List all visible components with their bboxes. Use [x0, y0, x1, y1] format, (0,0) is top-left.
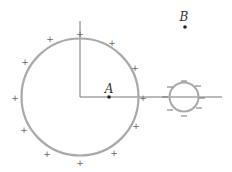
svg-text:+: +: [20, 125, 28, 135]
svg-text:+: +: [46, 34, 54, 44]
svg-text:+: +: [110, 148, 118, 158]
svg-text:+: +: [139, 93, 147, 103]
svg-text:+: +: [108, 38, 116, 48]
svg-text:+: +: [132, 121, 140, 131]
svg-text:+: +: [43, 149, 51, 159]
point-b-label: B: [179, 10, 189, 24]
svg-text:+: +: [21, 57, 29, 67]
positive-charges: + + + + + + + + + + + +: [11, 29, 147, 168]
svg-text:+: +: [11, 93, 19, 103]
svg-text:+: +: [76, 158, 84, 168]
svg-text:+: +: [131, 63, 139, 73]
diagram-canvas: + + + + + + + + + + + + A B: [0, 0, 232, 172]
point-a-label: A: [104, 82, 114, 96]
point-b-dot: [183, 25, 187, 29]
svg-text:+: +: [76, 29, 84, 39]
